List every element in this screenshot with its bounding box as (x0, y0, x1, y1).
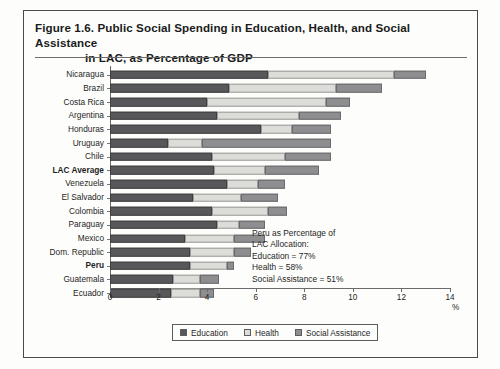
x-tick-mark (353, 288, 354, 292)
stacked-bar (110, 207, 287, 216)
x-tick-label: 10 (348, 293, 357, 302)
y-axis-label-el-salvador: El Salvador (62, 193, 104, 202)
x-tick-label: 12 (397, 293, 406, 302)
bar-segment-health (190, 261, 226, 270)
y-axis-label-chile: Chile (85, 152, 104, 161)
y-axis-label-lac-average: LAC Average (53, 166, 105, 175)
bar-segment-social-assistance (268, 207, 287, 216)
x-tick-label: 0 (108, 293, 113, 302)
stacked-bar (110, 84, 382, 93)
bar-segment-education (110, 221, 217, 230)
stacked-bar (110, 139, 331, 148)
stacked-bar (110, 98, 350, 107)
bar-segment-health (214, 166, 265, 175)
bar-segment-education (110, 98, 207, 107)
legend-label: Education (191, 328, 228, 338)
bar-segment-health (229, 84, 336, 93)
legend-label: Health (255, 328, 279, 338)
x-tick-mark (401, 288, 402, 292)
stacked-bar (110, 180, 285, 189)
y-axis-label-paraguay: Paraguay (68, 220, 104, 229)
stacked-bar (110, 289, 214, 298)
y-axis-label-dom-republic: Dom. Republic (50, 248, 104, 257)
x-tick-mark (450, 288, 451, 292)
bar-segment-education (110, 234, 185, 243)
annotation-line-2: LAC Allocation: (252, 239, 343, 250)
bar-segment-social-assistance (326, 98, 350, 107)
bar-segment-social-assistance (227, 261, 234, 270)
y-axis-label-brazil: Brazil (83, 84, 104, 93)
bar-segment-health (168, 139, 202, 148)
annotation-line-5: Social Assistance = 51% (252, 274, 343, 285)
legend-item: Social Assistance (295, 328, 371, 338)
chart-legend: EducationHealthSocial Assistance (172, 324, 378, 341)
bar-segment-education (110, 275, 173, 284)
x-tick-label: 6 (253, 293, 258, 302)
bar-row: Costa Rica (110, 95, 450, 109)
annotation-line-3: Education = 77% (252, 251, 343, 262)
stacked-bar (110, 71, 426, 80)
bar-segment-health (171, 289, 200, 298)
stacked-bar (110, 193, 278, 202)
bar-row: Honduras (110, 123, 450, 137)
x-tick-label: 4 (205, 293, 210, 302)
bar-segment-social-assistance (258, 180, 285, 189)
stacked-bar (110, 152, 331, 161)
x-tick-mark (304, 288, 305, 292)
bar-row: Venezuela (110, 177, 450, 191)
bar-segment-education (110, 125, 261, 134)
bar-segment-education (110, 84, 229, 93)
y-axis-label-honduras: Honduras (68, 125, 104, 134)
bar-segment-education (110, 71, 268, 80)
bar-segment-education (110, 248, 190, 257)
figure-page: Figure 1.6. Public Social Spending in Ed… (0, 0, 500, 369)
bar-row: Colombia (110, 204, 450, 218)
bar-segment-social-assistance (285, 152, 331, 161)
y-axis-label-peru: Peru (86, 261, 104, 270)
stacked-bar (110, 125, 331, 134)
bar-segment-social-assistance (394, 71, 426, 80)
bar-row: Nicaragua (110, 68, 450, 82)
bar-segment-social-assistance (292, 125, 331, 134)
chart-plot-area: NicaraguaBrazilCosta RicaArgentinaHondur… (0, 0, 500, 369)
bar-segment-health (207, 98, 326, 107)
bar-segment-social-assistance (265, 166, 318, 175)
stacked-bar (110, 261, 234, 270)
bar-segment-education (110, 193, 193, 202)
y-axis-label-venezuela: Venezuela (65, 179, 104, 188)
bar-segment-health (261, 125, 293, 134)
legend-item: Health (244, 328, 279, 338)
stacked-bar (110, 248, 251, 257)
bar-row: Chile (110, 150, 450, 164)
stacked-bar (110, 275, 219, 284)
bar-segment-health (185, 234, 234, 243)
y-axis-label-argentina: Argentina (68, 111, 104, 120)
x-tick-label: 14 (445, 293, 454, 302)
y-axis-label-ecuador: Ecuador (73, 289, 104, 298)
bar-segment-health (268, 71, 394, 80)
bar-segment-health (217, 221, 239, 230)
bar-row: Argentina (110, 109, 450, 123)
y-axis-label-uruguay: Uruguay (73, 139, 104, 148)
bar-segment-health (217, 111, 300, 120)
bar-segment-education (110, 166, 214, 175)
legend-label: Social Assistance (306, 328, 371, 338)
bar-segment-health (212, 207, 268, 216)
bar-segment-social-assistance (200, 275, 219, 284)
y-axis-label-costa-rica: Costa Rica (63, 98, 104, 107)
legend-item: Education (180, 328, 228, 338)
legend-swatch-social-assistance (295, 329, 302, 336)
bar-segment-education (110, 180, 227, 189)
bar-segment-health (173, 275, 200, 284)
y-axis-label-colombia: Colombia (69, 207, 104, 216)
x-tick-mark (207, 288, 208, 292)
legend-swatch-education (180, 329, 187, 336)
bar-segment-health (190, 248, 234, 257)
bar-segment-education (110, 289, 171, 298)
x-tick-mark (110, 288, 111, 292)
annotation-line-4: Health = 58% (252, 262, 343, 273)
bar-segment-education (110, 111, 217, 120)
y-axis-label-nicaragua: Nicaragua (66, 70, 104, 79)
x-tick-mark (159, 288, 160, 292)
bar-segment-health (193, 193, 242, 202)
